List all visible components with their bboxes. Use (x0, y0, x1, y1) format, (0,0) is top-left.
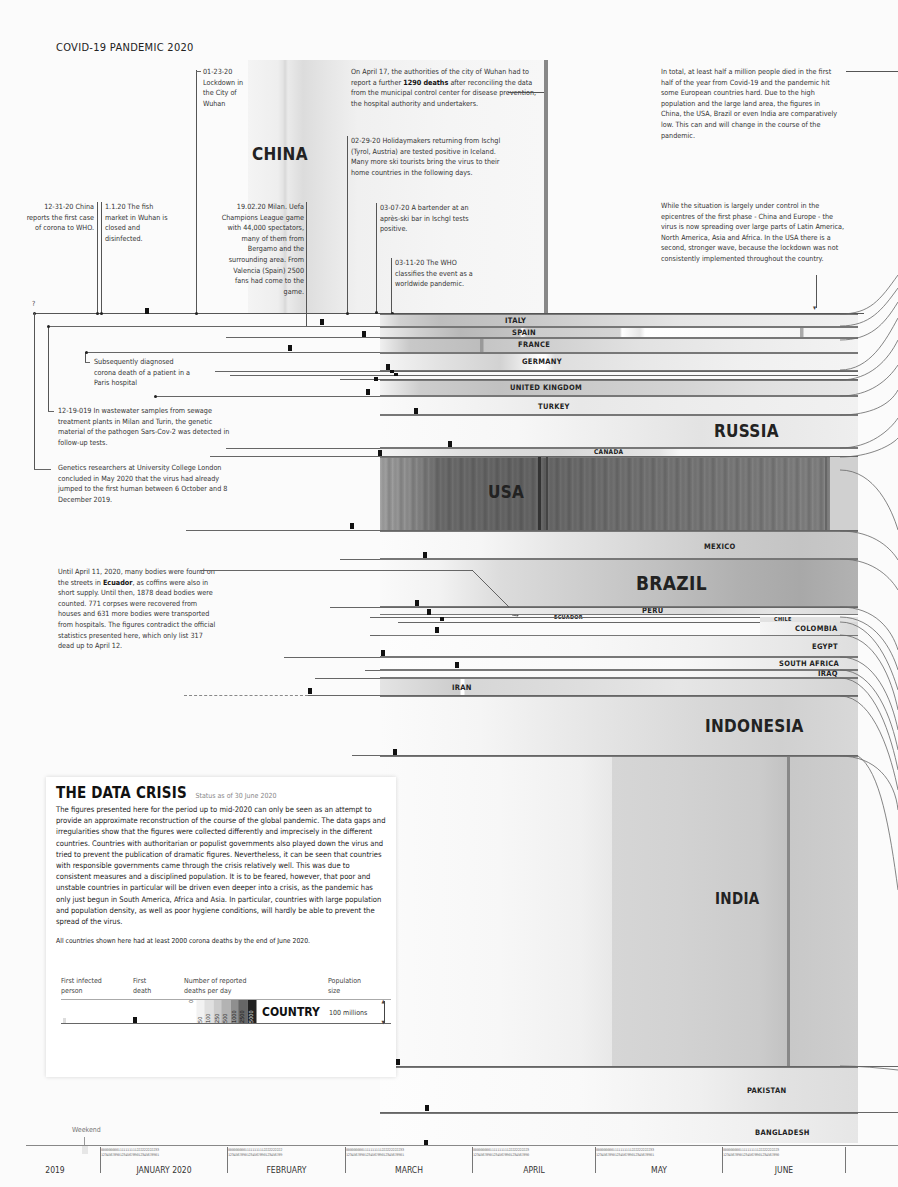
band-italy (380, 314, 858, 327)
usa-first-death (350, 523, 354, 529)
legend-first-death: First death (133, 977, 163, 996)
fish-market-line (101, 202, 102, 314)
band-label-france: FRANCE (518, 340, 550, 349)
legend-population: Population size (328, 977, 368, 996)
daystrip-apr: 0000000001111111111222222222231234567890… (473, 1148, 595, 1160)
ucl-tick (34, 469, 51, 470)
legend-pop-arrow-bottom-icon: ▼ (382, 1019, 385, 1025)
legend-first-infected: First infected person (61, 977, 111, 996)
ecuador-first-death (427, 609, 431, 615)
data-crisis-box: THE DATA CRISIS Status as of 30 June 202… (46, 777, 396, 1077)
annotation-paris: Subsequently diagnosed corona death of a… (94, 357, 194, 389)
band-spain (380, 327, 858, 338)
crisis-heading: THE DATA CRISIS (56, 784, 187, 802)
population-curves (840, 270, 898, 1110)
indonesia-first-death (393, 749, 397, 755)
scale-step-250: 250 (214, 1000, 223, 1023)
legend-first-infected-marker (63, 1018, 66, 1023)
daystrip-may: 0000000001111111111222222222233123456789… (596, 1148, 722, 1160)
month-june: JUNE (723, 1165, 845, 1175)
band-label-pakistan: PAKISTAN (747, 1086, 786, 1095)
germany-line-b (230, 375, 858, 376)
legend-deaths-per-day: Number of reported deaths per day (184, 977, 264, 996)
band-egypt (380, 635, 858, 657)
question-mark: ? (32, 300, 35, 308)
annotation-half-million: In total, at least half a million people… (661, 67, 841, 141)
crisis-body: The figures presented here for the perio… (56, 804, 386, 927)
band-label-mexico: MEXICO (704, 542, 736, 551)
france-first-infected (85, 351, 88, 354)
band-label-usa: USA (488, 482, 524, 502)
band-label-iran: IRAN (452, 683, 472, 692)
bartender-line (376, 203, 377, 314)
band-label-germany: GERMANY (522, 357, 562, 366)
annotation-bartender: 03-07-20 A bartender at an après-ski bar… (380, 203, 480, 235)
germany-line-a (215, 371, 858, 372)
scale-step-100: 100 (205, 1000, 214, 1023)
scale-step-500: 500 (222, 1000, 231, 1023)
milan-line (306, 202, 307, 327)
mexico-first-death (423, 552, 427, 558)
scale-step-5000: 5000 (248, 1000, 257, 1023)
scale-step-1000: 1000 (231, 1000, 240, 1023)
russia-first-death (448, 441, 452, 447)
usa-peak-stripe-1 (538, 457, 541, 531)
legend-pop-value: 100 millions (329, 1009, 367, 1017)
scale-step-50: 50 (197, 1000, 206, 1023)
band-iraq (380, 670, 858, 678)
annotation-ischgl: 02-29-20 Holidaymakers returning from Is… (351, 136, 501, 178)
wastewater-line (48, 326, 49, 412)
scale-step-2500: 2500 (239, 1000, 248, 1023)
band-label-russia: RUSSIA (714, 421, 779, 441)
uk-first-death (366, 389, 370, 395)
lockdown-line (196, 70, 197, 313)
band-label-italy: ITALY (505, 316, 526, 325)
china-report-line (97, 202, 98, 314)
half-million-pointer (846, 71, 898, 72)
band-germany (380, 353, 858, 371)
month-march: MARCH (346, 1165, 472, 1175)
italy-first-infected (47, 325, 50, 328)
tick-end (845, 1147, 846, 1173)
band-label-colombia: COLOMBIA (795, 624, 837, 633)
band-label-uk: UNITED KINGDOM (510, 383, 582, 392)
wuhan-deaths-pointer (508, 92, 544, 93)
band-label-china: CHINA (252, 144, 308, 164)
band-label-canada: CANADA (594, 448, 623, 456)
band-label-turkey: TURKEY (538, 402, 570, 411)
band-label-indonesia: INDONESIA (705, 716, 804, 736)
band-label-brazil: BRAZIL (636, 572, 707, 594)
egypt-first-death (381, 650, 385, 656)
band-brazil (380, 559, 858, 607)
daystrip-jun: 0000000001111111111222222222231234567890… (723, 1148, 845, 1160)
ischgl-line (347, 136, 348, 314)
annotation-ucl: Genetics researchers at University Colle… (58, 463, 228, 505)
legend-country: COUNTRY (262, 1005, 320, 1019)
band-france (380, 338, 858, 353)
legend-color-scale: 0 50 100 250 500 1000 2500 5000 (188, 1000, 256, 1023)
india-first-death (396, 1059, 400, 1065)
annotation-wuhan-deaths: On April 17, the authorities of the city… (351, 67, 541, 109)
annotation-ecuador: Until April 11, 2020, many bodies were f… (58, 567, 218, 652)
china-first-death (145, 308, 149, 314)
month-may: MAY (596, 1165, 722, 1175)
band-turkey (380, 396, 858, 415)
spain-first-death (362, 331, 366, 337)
second-wave-arrow (816, 275, 817, 308)
wastewater-tick (48, 411, 54, 412)
germany-first-death-c (394, 373, 398, 376)
usa-late-stripe (825, 457, 827, 531)
daystrip-feb: 0000000001111111111222222222212345678901… (228, 1148, 345, 1160)
band-peru (380, 607, 858, 615)
ischgl-dot (346, 312, 349, 315)
band-uk (380, 380, 858, 396)
paris-tick (85, 362, 90, 363)
band-label-bangladesh: BANGLADESH (755, 1128, 810, 1137)
ucl-line (34, 313, 35, 469)
month-january: JANUARY 2020 (101, 1165, 227, 1175)
annotation-fish-market: 1.1.20 The fish market in Wuhan is close… (105, 202, 175, 244)
month-april: APRIL (473, 1165, 595, 1175)
peru-first-death (415, 600, 419, 606)
crisis-footnote: All countries shown here had at least 20… (56, 937, 386, 945)
arrow-down-icon: ▾ (813, 305, 816, 312)
